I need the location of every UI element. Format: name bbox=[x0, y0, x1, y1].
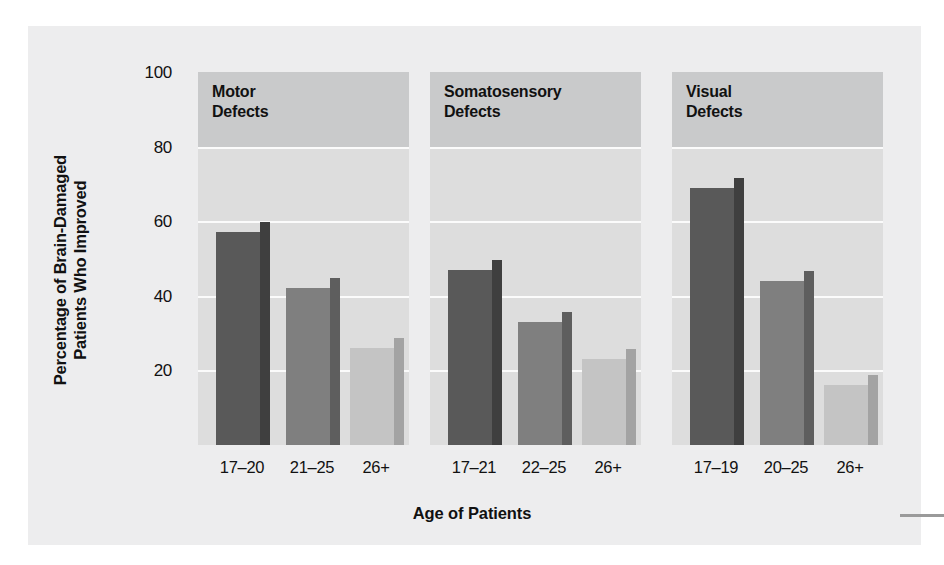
bar-front-face bbox=[582, 359, 626, 445]
y-axis-tick-label: 60 bbox=[128, 213, 172, 230]
bar-front-face bbox=[690, 188, 734, 445]
x-axis-tick-label: 17–21 bbox=[452, 458, 496, 477]
panel-title-line2: Defects bbox=[444, 102, 561, 122]
gridline bbox=[430, 147, 641, 149]
bar-front-face bbox=[286, 288, 330, 445]
bar-front-face bbox=[216, 232, 260, 445]
y-axis-ticks: 10080604020 bbox=[120, 0, 172, 565]
page-edge-rule bbox=[900, 514, 944, 517]
gridline bbox=[430, 221, 641, 223]
bar-top-face bbox=[260, 222, 270, 232]
bar-front-face bbox=[824, 385, 868, 445]
y-axis-title: Percentage of Brain-Damaged Patients Who… bbox=[50, 70, 90, 470]
y-axis-title-line1: Percentage of Brain-Damaged bbox=[50, 70, 70, 470]
bar-front-face bbox=[350, 348, 394, 445]
bar bbox=[286, 288, 330, 445]
figure: Percentage of Brain-Damaged Patients Who… bbox=[0, 0, 944, 565]
x-axis-tick-label: 22–25 bbox=[522, 458, 566, 477]
bar-top-face bbox=[804, 271, 814, 281]
y-axis-tick-label: 100 bbox=[128, 64, 172, 81]
x-axis-tick-label: 17–19 bbox=[694, 458, 738, 477]
bar bbox=[518, 322, 562, 445]
y-axis-tick-label: 40 bbox=[128, 287, 172, 304]
gridline bbox=[198, 221, 409, 223]
panel-title-line1: Motor bbox=[212, 82, 268, 102]
panel-title: MotorDefects bbox=[212, 82, 268, 122]
y-axis-title-line2: Patients Who Improved bbox=[70, 70, 90, 470]
chart-panel: VisualDefects bbox=[672, 72, 883, 445]
bar-side-face bbox=[330, 288, 340, 445]
bar-side-face bbox=[804, 281, 814, 445]
panel-title: SomatosensoryDefects bbox=[444, 82, 561, 122]
bar bbox=[448, 270, 492, 445]
bar-front-face bbox=[448, 270, 492, 445]
x-axis-tick-label: 21–25 bbox=[290, 458, 334, 477]
bar bbox=[216, 232, 260, 445]
x-axis-tick-label: 17–20 bbox=[220, 458, 264, 477]
bar-top-face bbox=[492, 260, 502, 270]
gridline bbox=[198, 147, 409, 149]
bar-top-face bbox=[394, 338, 404, 348]
bar-top-face bbox=[868, 375, 878, 385]
panel-title-line1: Visual bbox=[686, 82, 742, 102]
y-axis-tick-label: 80 bbox=[128, 138, 172, 155]
bar bbox=[760, 281, 804, 445]
bar bbox=[824, 385, 868, 445]
bar-front-face bbox=[518, 322, 562, 445]
bar-side-face bbox=[868, 385, 878, 445]
bar-top-face bbox=[734, 178, 744, 188]
bar-side-face bbox=[734, 188, 744, 445]
bar-front-face bbox=[760, 281, 804, 445]
bar bbox=[350, 348, 394, 445]
panel-title: VisualDefects bbox=[686, 82, 742, 122]
bar-side-face bbox=[260, 232, 270, 445]
bar-side-face bbox=[492, 270, 502, 445]
x-axis-tick-label: 20–25 bbox=[764, 458, 808, 477]
bar-side-face bbox=[562, 322, 572, 445]
chart-panel: MotorDefects bbox=[198, 72, 409, 445]
y-axis-tick-label: 20 bbox=[128, 362, 172, 379]
bar-side-face bbox=[394, 348, 404, 445]
panel-title-line2: Defects bbox=[212, 102, 268, 122]
x-axis-tick-label: 26+ bbox=[594, 458, 621, 477]
x-axis-tick-label: 26+ bbox=[362, 458, 389, 477]
bar-side-face bbox=[626, 359, 636, 445]
bar bbox=[690, 188, 734, 445]
bar-top-face bbox=[562, 312, 572, 322]
x-axis-title: Age of Patients bbox=[0, 504, 944, 523]
panel-title-line1: Somatosensory bbox=[444, 82, 561, 102]
gridline bbox=[672, 147, 883, 149]
bar bbox=[582, 359, 626, 445]
panel-title-line2: Defects bbox=[686, 102, 742, 122]
x-axis-tick-label: 26+ bbox=[836, 458, 863, 477]
bar-top-face bbox=[330, 278, 340, 288]
bar-top-face bbox=[626, 349, 636, 359]
chart-panel: SomatosensoryDefects bbox=[430, 72, 641, 445]
